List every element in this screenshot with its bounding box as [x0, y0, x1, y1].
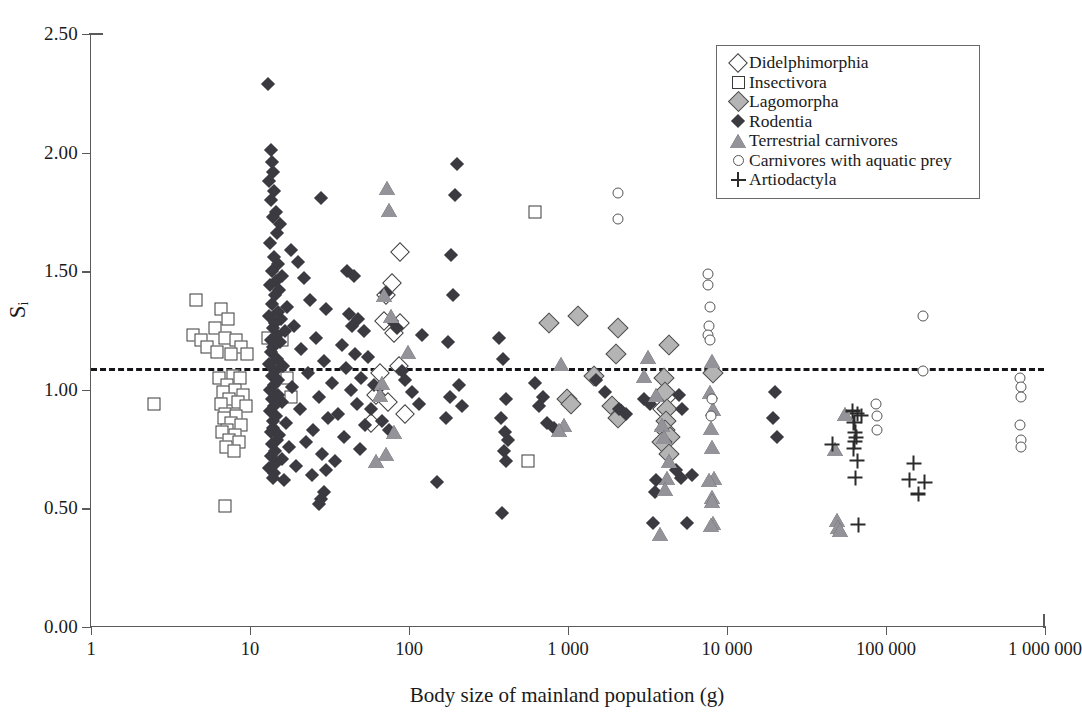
data-point-filled-diamond [492, 331, 506, 345]
data-point-filled-diamond [385, 314, 399, 328]
data-point-open-diamond [366, 385, 386, 405]
data-point-gray-triangle [368, 454, 384, 468]
data-point-open-square [221, 379, 234, 392]
legend-item-terrestrial-carnivores: Terrestrial carnivores [727, 131, 969, 151]
data-point-open-square [280, 371, 293, 384]
data-point-gray-diamond [703, 363, 724, 384]
data-point-open-square [218, 412, 231, 425]
data-point-filled-diamond [267, 250, 281, 264]
legend-item-lagomorpha: Lagomorpha [727, 92, 969, 112]
data-point-filled-diamond [444, 248, 458, 262]
data-point-filled-diamond [265, 437, 279, 451]
data-point-filled-diamond [264, 143, 278, 157]
data-point-open-circle [1015, 391, 1026, 402]
data-point-filled-diamond [305, 468, 319, 482]
gray-diamond-glyph [727, 91, 748, 112]
data-point-filled-diamond [496, 352, 510, 366]
x-tick-label: 1 000 000 [1008, 639, 1082, 660]
data-point-plus [917, 475, 932, 490]
data-point-filled-diamond [265, 297, 279, 311]
data-point-open-square [235, 341, 248, 354]
data-point-filled-diamond [669, 463, 683, 477]
data-point-filled-diamond [275, 269, 289, 283]
data-point-filled-diamond [649, 473, 663, 487]
data-point-gray-triangle [640, 350, 656, 364]
data-point-gray-triangle [400, 345, 416, 359]
data-point-filled-diamond [350, 397, 364, 411]
data-point-filled-diamond [275, 395, 289, 409]
data-point-filled-diamond [278, 323, 292, 337]
data-point-gray-triangle [704, 490, 720, 504]
data-point-open-square [221, 424, 234, 437]
data-point-open-square [219, 407, 232, 420]
data-point-filled-diamond [405, 385, 419, 399]
data-point-open-square [228, 383, 241, 396]
data-point-plus [849, 430, 864, 445]
data-point-filled-diamond [540, 416, 554, 430]
data-point-gray-diamond [605, 344, 626, 365]
data-point-open-square [223, 393, 236, 406]
data-point-open-square [521, 454, 534, 467]
data-point-open-circle [1015, 420, 1026, 431]
data-point-filled-diamond [272, 428, 286, 442]
data-point-open-circle [612, 187, 623, 198]
data-point-open-square [210, 345, 223, 358]
data-point-open-circle [1016, 434, 1027, 445]
data-point-plus [847, 416, 862, 431]
data-point-open-square [219, 331, 232, 344]
data-point-open-square [148, 398, 161, 411]
data-point-filled-diamond [264, 449, 278, 463]
y-tick-mark [82, 153, 91, 154]
data-point-open-square [262, 331, 275, 344]
data-point-filled-diamond [262, 461, 276, 475]
data-point-open-diamond [389, 356, 409, 376]
data-point-gray-diamond [658, 334, 679, 355]
data-point-filled-diamond [267, 399, 281, 413]
data-point-open-square [228, 428, 241, 441]
data-point-filled-diamond [335, 338, 349, 352]
data-point-gray-diamond [602, 396, 623, 417]
data-point-filled-diamond [264, 193, 278, 207]
data-point-gray-triangle [706, 471, 722, 485]
data-point-filled-diamond [262, 174, 276, 188]
data-point-filled-diamond [321, 411, 335, 425]
x-tick-label: 10 000 [702, 639, 753, 660]
data-point-filled-diamond [268, 316, 282, 330]
data-point-open-diamond [384, 323, 404, 343]
y-tick-label: 2.50 [44, 23, 78, 45]
data-point-open-diamond [382, 273, 402, 293]
data-point-gray-triangle [386, 425, 402, 439]
x-tick-mark [886, 626, 887, 635]
data-point-gray-triangle [704, 440, 720, 454]
data-point-open-diamond [361, 413, 381, 433]
data-point-filled-diamond [279, 416, 293, 430]
filled-diamond-glyph [731, 114, 745, 128]
data-point-gray-triangle [656, 430, 672, 444]
y-tick-mark [82, 508, 91, 509]
data-point-filled-diamond [766, 411, 780, 425]
legend-item-artiodactyla: Artiodactyla [727, 170, 969, 190]
y-tick-label: 2.00 [44, 142, 78, 164]
data-point-filled-diamond [285, 380, 299, 394]
data-point-filled-diamond [319, 302, 333, 316]
data-point-open-circle [703, 280, 714, 291]
data-point-filled-diamond [390, 321, 404, 335]
data-point-filled-diamond [266, 470, 280, 484]
data-point-filled-diamond [373, 380, 387, 394]
data-point-open-square [208, 322, 221, 335]
data-point-gray-triangle [827, 442, 843, 456]
legend-item-label: Didelphimorphia [749, 54, 869, 72]
data-point-filled-diamond [263, 404, 277, 418]
data-point-filled-diamond [314, 191, 328, 205]
data-point-filled-diamond [446, 288, 460, 302]
data-point-filled-diamond [272, 283, 286, 297]
data-point-open-circle [703, 320, 714, 331]
data-point-gray-diamond [556, 389, 577, 410]
data-point-gray-triangle [652, 527, 668, 541]
data-point-filled-diamond [345, 319, 359, 333]
data-point-open-circle [1016, 382, 1027, 393]
data-point-open-square [225, 348, 238, 361]
data-point-filled-diamond [294, 342, 308, 356]
y-tick-mark [82, 390, 91, 391]
